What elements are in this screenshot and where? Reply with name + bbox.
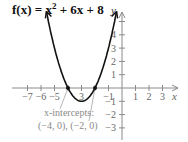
x-intercept-point xyxy=(66,86,70,90)
chart-title: f(x) = x2 + 6x + 8 xyxy=(12,1,104,18)
x-tick-label: 3 xyxy=(160,91,165,102)
title-prefix: f(x) = x xyxy=(12,2,52,17)
x-intercept-point xyxy=(93,86,97,90)
x-tick-label: 2 xyxy=(147,91,152,102)
x-tick-label: −7 xyxy=(22,91,33,102)
x-tick-label: 1 xyxy=(133,91,138,102)
chart: −7−6−53−1123−3−2−11234xy f(x) = x2 + 6x … xyxy=(0,0,188,142)
annotation-leader-line xyxy=(60,88,68,109)
annotation-line-1: x-intercepts: xyxy=(44,107,94,118)
y-tick-label: 3 xyxy=(111,43,116,54)
y-tick-label: 2 xyxy=(111,56,116,67)
title-suffix: + 6x + 8 xyxy=(56,2,103,17)
y-tick-label: 1 xyxy=(111,69,116,80)
x-tick-label: −6 xyxy=(36,91,47,102)
x-tick-label: −5 xyxy=(49,91,60,102)
x-axis-label: x xyxy=(171,90,177,102)
y-tick-label: −2 xyxy=(105,109,116,120)
y-tick-label: −1 xyxy=(105,96,116,107)
annotation-line-2: (−4, 0), (−2, 0) xyxy=(38,120,98,131)
y-tick-label: −3 xyxy=(105,122,116,133)
